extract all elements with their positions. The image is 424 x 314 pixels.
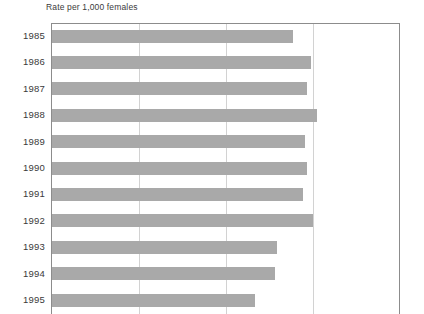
- y-tick-label-1988: 1988: [23, 102, 45, 128]
- bar-1995: [52, 294, 255, 307]
- y-tick-label-1989: 1989: [23, 129, 45, 155]
- y-tick-label-1995: 1995: [23, 287, 45, 313]
- bar-1990: [52, 162, 307, 175]
- y-tick-label-1993: 1993: [23, 234, 45, 260]
- plot-area: [52, 23, 400, 314]
- bar-series: [52, 23, 400, 314]
- y-tick-label-1994: 1994: [23, 261, 45, 287]
- bar-1986: [52, 56, 311, 69]
- y-tick-label-1990: 1990: [23, 155, 45, 181]
- bar-1989: [52, 135, 305, 148]
- bar-1992: [52, 214, 313, 227]
- y-tick-label-1986: 1986: [23, 49, 45, 75]
- bar-1987: [52, 82, 307, 95]
- bar-1988: [52, 109, 317, 122]
- bar-1994: [52, 267, 275, 280]
- y-axis-labels: 1985 1986 1987 1988 1989 1990 1991 1992 …: [0, 23, 52, 314]
- bar-1985: [52, 30, 293, 43]
- bar-1991: [52, 188, 303, 201]
- y-tick-label-1985: 1985: [23, 23, 45, 49]
- chart-figure: Rate per 1,000 females 1985 1986 1987 19…: [0, 0, 424, 314]
- y-tick-label-1991: 1991: [23, 181, 45, 207]
- y-tick-label-1992: 1992: [23, 208, 45, 234]
- y-tick-label-1987: 1987: [23, 76, 45, 102]
- axis-title: Rate per 1,000 females: [46, 2, 138, 12]
- bar-1993: [52, 241, 277, 254]
